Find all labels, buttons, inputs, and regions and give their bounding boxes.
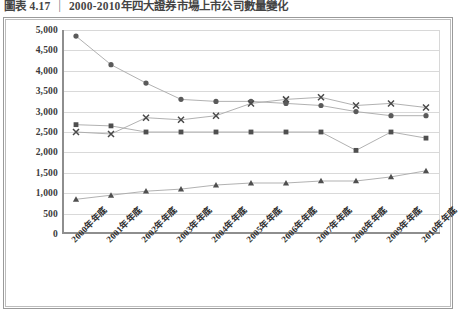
- y-axis-tick-label: 0: [6, 229, 58, 239]
- data-point-square: [74, 122, 79, 127]
- data-point-square: [389, 130, 394, 135]
- figure-root: 圖表 4.17 | 2000-2010年四大證券市場上市公司數量變化 5,000…: [0, 0, 458, 314]
- figure-number: 圖表 4.17: [4, 0, 50, 13]
- data-point-square: [144, 130, 149, 135]
- caption-separator: |: [55, 0, 64, 11]
- data-point-circle: [108, 62, 113, 67]
- figure-caption: 圖表 4.17 | 2000-2010年四大證券市場上市公司數量變化: [4, 0, 456, 13]
- data-point-square: [109, 123, 114, 128]
- x-axis-labels: 2000年年底2001年年底2002年年底2003年年底2004年年底2005年…: [62, 236, 440, 296]
- y-axis-labels: 5,0004,5004,0003,5003,0002,5002,0001,500…: [6, 24, 58, 240]
- series-layer: [62, 30, 440, 234]
- data-point-circle: [73, 34, 78, 39]
- data-point-square: [249, 130, 254, 135]
- series-line: [76, 125, 426, 151]
- plot-area: [62, 30, 440, 234]
- data-point-triangle: [423, 168, 429, 174]
- data-point-square: [424, 136, 429, 141]
- data-point-square: [214, 130, 219, 135]
- data-point-circle: [213, 99, 218, 104]
- data-point-square: [319, 130, 324, 135]
- y-axis-tick-label: 3,500: [6, 86, 58, 96]
- page-title: 2000-2010年四大證券市場上市公司數量變化: [69, 0, 289, 13]
- y-axis-tick-label: 4,000: [6, 66, 58, 76]
- data-point-square: [284, 130, 289, 135]
- y-axis-tick-label: 5,000: [6, 25, 58, 35]
- data-point-circle: [353, 109, 358, 114]
- y-axis-tick-label: 2,500: [6, 127, 58, 137]
- data-point-square: [179, 130, 184, 135]
- y-axis-tick-label: 4,500: [6, 45, 58, 55]
- data-point-square: [354, 148, 359, 153]
- data-point-circle: [318, 103, 323, 108]
- y-axis-tick-label: 1,000: [6, 188, 58, 198]
- y-axis-tick-label: 3,000: [6, 107, 58, 117]
- data-point-circle: [423, 113, 428, 118]
- y-axis-tick-label: 500: [6, 209, 58, 219]
- data-point-circle: [178, 97, 183, 102]
- data-point-circle: [388, 113, 393, 118]
- data-series-triangle: [73, 168, 429, 202]
- y-axis-tick-label: 2,000: [6, 147, 58, 157]
- data-point-circle: [143, 80, 148, 85]
- data-series-circle: [73, 34, 428, 119]
- y-axis-tick-label: 1,500: [6, 168, 58, 178]
